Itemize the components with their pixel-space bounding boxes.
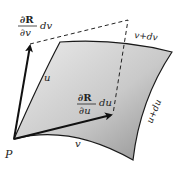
surface-patch bbox=[14, 41, 172, 160]
svg-text:du: du bbox=[99, 97, 112, 108]
point-label-P: P bbox=[4, 148, 13, 161]
u-plus-du-label: u+du bbox=[145, 98, 164, 125]
svg-text:dv: dv bbox=[40, 20, 52, 31]
v-curve-label: v bbox=[75, 138, 81, 149]
svg-text:∂u: ∂u bbox=[79, 105, 91, 116]
vector-dR-dv-label: ∂R ∂v dv bbox=[18, 14, 52, 38]
surface-diagram: P u v v+dv u+du ∂R ∂v dv ∂R ∂u du bbox=[0, 0, 186, 172]
u-curve-label: u bbox=[44, 72, 50, 83]
svg-text:∂v: ∂v bbox=[20, 27, 31, 38]
svg-text:∂R: ∂R bbox=[78, 92, 92, 103]
svg-text:∂R: ∂R bbox=[20, 14, 34, 25]
v-plus-dv-label: v+dv bbox=[134, 30, 158, 42]
